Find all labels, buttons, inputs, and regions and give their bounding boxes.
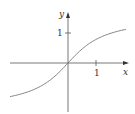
x-axis-label: x — [123, 67, 128, 77]
arctan-graph: x y 1 1 — [0, 0, 135, 114]
y-axis-arrow-icon — [66, 12, 70, 18]
x-axis-arrow-icon — [123, 61, 129, 65]
y-tick-label: 1 — [57, 28, 63, 38]
y-axis-label: y — [58, 9, 65, 19]
x-tick-label: 1 — [94, 68, 100, 78]
